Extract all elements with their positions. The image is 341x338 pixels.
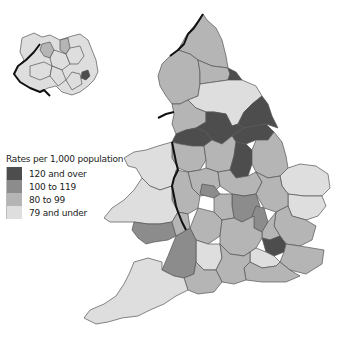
region-norfolk <box>280 164 330 196</box>
legend-item: 120 and over <box>6 167 123 180</box>
legend-label: 100 to 119 <box>29 182 76 192</box>
legend-label: 80 to 99 <box>29 195 65 205</box>
legend-item: 79 and under <box>6 206 123 219</box>
legend-label: 120 and over <box>29 169 87 179</box>
region-suffolk <box>288 194 326 220</box>
legend-label: 79 and under <box>29 208 87 218</box>
region-wales-north <box>124 142 178 190</box>
legend: Rates per 1,000 population 120 and over … <box>6 154 123 219</box>
legend-swatch <box>6 206 22 219</box>
northern-ireland-inset <box>14 33 98 96</box>
legend-swatch <box>6 180 22 193</box>
legend-item: 80 to 99 <box>6 193 123 206</box>
region-wales-south <box>132 222 176 244</box>
legend-title: Rates per 1,000 population <box>6 154 123 164</box>
legend-swatch <box>6 167 22 180</box>
region-cumbria <box>158 50 200 104</box>
nw-border <box>158 112 174 118</box>
legend-swatch <box>6 193 22 206</box>
legend-item: 100 to 119 <box>6 180 123 193</box>
